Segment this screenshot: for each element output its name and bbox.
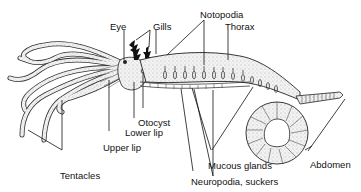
tentacles-drawing bbox=[10, 44, 124, 140]
label-neuropodia-suckers: Neuropodia, suckers bbox=[191, 177, 278, 187]
label-eye: Eye bbox=[110, 22, 126, 32]
abdomen-drawing bbox=[246, 92, 343, 164]
anatomy-illustration bbox=[0, 0, 361, 192]
label-mucous-glands: Mucous glands bbox=[208, 161, 272, 171]
label-upper-lip: Upper lip bbox=[103, 143, 141, 153]
label-tentacles: Tentacles bbox=[60, 171, 100, 181]
label-notopodia: Notopodia bbox=[200, 10, 243, 20]
label-thorax: Thorax bbox=[225, 22, 255, 32]
eye-spot bbox=[123, 60, 127, 64]
label-gills: Gills bbox=[153, 22, 171, 32]
label-lower-lip: Lower lip bbox=[125, 128, 163, 138]
worm-anatomy-diagram: Eye Gills Notopodia Thorax Otocyst Lower… bbox=[0, 0, 361, 192]
label-abdomen: Abdomen bbox=[310, 160, 351, 170]
thorax-drawing bbox=[140, 53, 300, 100]
